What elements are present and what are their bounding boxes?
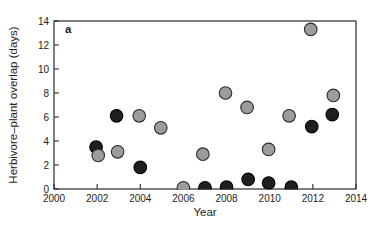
scatter-chart: 2000200220042006200820102012201402468101…: [0, 0, 384, 236]
y-tick-label: 0: [43, 184, 49, 195]
x-axis-title: Year: [193, 206, 216, 218]
y-tick-label: 2: [43, 160, 49, 171]
x-tick-label: 2010: [259, 193, 282, 204]
x-tick-label: 2008: [215, 193, 238, 204]
x-tick-label: 2014: [345, 193, 368, 204]
plot-box: [54, 21, 356, 189]
axis-tick-labels: 2000200220042006200820102012201402468101…: [38, 16, 368, 205]
y-tick-label: 12: [38, 40, 50, 51]
axis-ticks: [54, 21, 356, 189]
data-point-gray-circles: [154, 122, 167, 135]
data-point-gray-circles: [197, 148, 210, 161]
y-tick-label: 4: [43, 136, 49, 147]
data-point-dark-circles: [220, 181, 233, 194]
data-point-dark-circles: [285, 181, 298, 194]
data-point-gray-circles: [262, 143, 275, 156]
x-tick-label: 2006: [172, 193, 195, 204]
x-tick-label: 2002: [86, 193, 109, 204]
y-tick-label: 6: [43, 112, 49, 123]
data-point-dark-circles: [110, 110, 123, 123]
data-point-dark-circles: [262, 177, 275, 190]
y-tick-label: 8: [43, 88, 49, 99]
panel-label: a: [65, 23, 72, 35]
data-points: [90, 23, 340, 194]
data-point-dark-circles: [134, 161, 147, 174]
x-tick-label: 2004: [129, 193, 152, 204]
data-point-gray-circles: [283, 110, 296, 123]
data-point-gray-circles: [92, 149, 105, 162]
data-point-dark-circles: [326, 108, 339, 121]
data-point-gray-circles: [327, 89, 340, 102]
data-point-gray-circles: [241, 101, 254, 114]
data-point-gray-circles: [219, 87, 232, 100]
data-point-gray-circles: [133, 110, 146, 123]
y-axis-title: Herbivore–plant overlap (days): [7, 26, 19, 183]
y-tick-label: 10: [38, 64, 50, 75]
data-point-gray-circles: [304, 23, 317, 36]
data-point-dark-circles: [242, 173, 255, 186]
x-tick-label: 2012: [302, 193, 325, 204]
data-point-gray-circles: [111, 146, 124, 159]
y-tick-label: 14: [38, 16, 50, 27]
x-tick-label: 2000: [43, 193, 66, 204]
data-point-dark-circles: [305, 120, 318, 133]
figure-panel-a: 2000200220042006200820102012201402468101…: [0, 0, 384, 236]
data-point-dark-circles: [199, 182, 212, 195]
